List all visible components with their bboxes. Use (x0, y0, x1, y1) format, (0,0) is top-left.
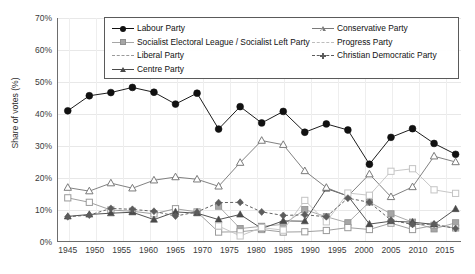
x-tick-label: 1970 (193, 245, 212, 255)
gridline-horizontal (58, 146, 461, 147)
x-tick-label: 2010 (408, 245, 427, 255)
y-tick-label: 70% (16, 13, 52, 23)
x-tick-label: 1980 (247, 245, 266, 255)
y-axis-label-wrap: Share of votes (%) (2, 0, 16, 242)
legend-swatch (112, 36, 134, 49)
gridline-vertical (96, 18, 97, 241)
legend-item[interactable]: Conservative Party (312, 22, 458, 36)
legend-column-right: Conservative PartyProgress PartyChristia… (312, 22, 458, 63)
x-tick-label: 2005 (382, 245, 401, 255)
legend-item[interactable]: Christian Democratic Party (312, 49, 458, 63)
legend-swatch (112, 63, 134, 76)
y-tick-label: 20% (16, 173, 52, 183)
x-tick-label: 1990 (301, 245, 320, 255)
y-tick-label: 50% (16, 77, 52, 87)
y-tick-label: 30% (16, 141, 52, 151)
x-tick-label: 1955 (112, 245, 131, 255)
legend-item[interactable]: Progress Party (312, 36, 458, 50)
x-tick-label: 1950 (85, 245, 104, 255)
y-tick-label: 10% (16, 205, 52, 215)
square-filled-marker-icon (120, 39, 126, 45)
legend-item[interactable]: Socialist Electoral League / Socialist L… (112, 36, 317, 50)
x-tick-label: 1965 (166, 245, 185, 255)
legend-label: Conservative Party (337, 22, 408, 36)
x-tick-label: 1995 (328, 245, 347, 255)
y-tick-label: 40% (16, 109, 52, 119)
gridline-vertical (69, 18, 70, 241)
y-tick-label: 60% (16, 45, 52, 55)
x-tick-label: 1975 (220, 245, 239, 255)
legend-label: Labour Party (137, 22, 185, 36)
triangle-filled-marker-icon (120, 67, 126, 72)
legend-label: Progress Party (337, 36, 392, 50)
circle-marker-icon (120, 26, 126, 32)
legend-line (312, 42, 334, 43)
chart-container: Share of votes (%) 0%10%20%30%40%50%60%7… (0, 0, 475, 274)
x-tick-label: 2000 (355, 245, 374, 255)
legend-swatch (312, 49, 334, 62)
x-tick-label: 1985 (274, 245, 293, 255)
legend-label: Liberal Party (137, 49, 184, 63)
legend-column-left: Labour PartySocialist Electoral League /… (112, 22, 317, 76)
legend-item[interactable]: Centre Party (112, 63, 317, 77)
legend-label: Centre Party (137, 63, 184, 77)
x-tick-label: 1960 (139, 245, 158, 255)
gridline-horizontal (58, 114, 461, 115)
legend-label: Socialist Electoral League / Socialist L… (137, 36, 310, 50)
legend-item[interactable]: Labour Party (112, 22, 317, 36)
gridline-horizontal (58, 82, 461, 83)
legend-swatch (112, 22, 134, 35)
legend-item[interactable]: Liberal Party (112, 49, 317, 63)
x-tick-label: 1945 (58, 245, 77, 255)
chart-legend: Labour PartySocialist Electoral League /… (104, 17, 459, 79)
legend-swatch (112, 49, 134, 62)
gridline-horizontal (58, 210, 461, 211)
gridline-horizontal (58, 178, 461, 179)
legend-swatch (312, 36, 334, 49)
y-tick-label: 0% (16, 237, 52, 247)
legend-line (112, 55, 134, 56)
legend-swatch (312, 22, 334, 35)
x-tick-label: 2015 (435, 245, 454, 255)
legend-label: Christian Democratic Party (337, 49, 437, 63)
